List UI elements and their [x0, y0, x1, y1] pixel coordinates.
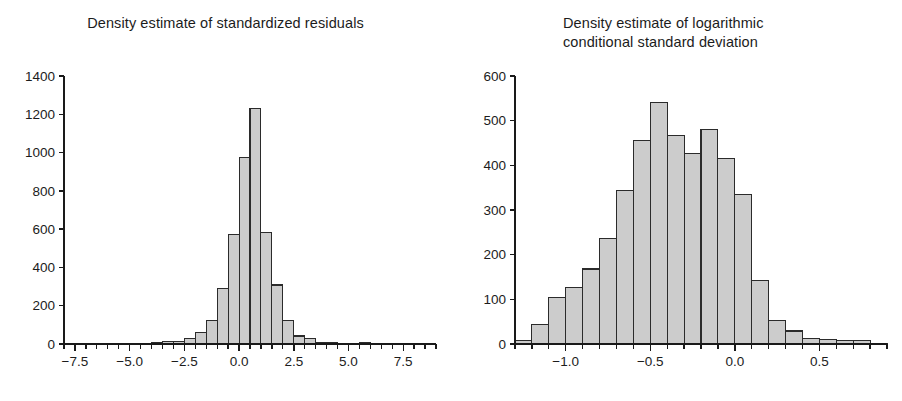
- histogram-bar: [261, 232, 272, 344]
- histogram-bar: [272, 285, 283, 344]
- x-tick-label: −7.5: [62, 354, 89, 369]
- panel-left-title: Density estimate of standardized residua…: [0, 14, 451, 33]
- x-tick-label: −1.0: [552, 354, 579, 369]
- x-tick-label: 2.5: [284, 354, 303, 369]
- panel-standardized-residuals: Density estimate of standardized residua…: [0, 0, 451, 401]
- plot-svg: 0200400600800100012001400−7.5−5.0−2.50.0…: [8, 62, 448, 392]
- histogram-bar: [650, 102, 667, 344]
- histogram-bar: [752, 281, 769, 344]
- y-tick-label: 100: [483, 292, 506, 307]
- histogram-bar: [305, 338, 316, 344]
- histogram-bar: [228, 234, 239, 344]
- histogram-bar: [549, 298, 566, 344]
- histogram-bar: [532, 324, 549, 344]
- histogram-bar: [283, 320, 294, 344]
- histogram-bar: [735, 195, 752, 344]
- histogram-bar: [633, 140, 650, 344]
- x-tick-label: 5.0: [339, 354, 358, 369]
- histogram-bar: [206, 320, 217, 344]
- x-tick-label: −5.0: [116, 354, 143, 369]
- histogram-bar: [195, 332, 206, 344]
- histogram-bar: [566, 288, 583, 344]
- bars-group: [152, 109, 415, 344]
- panel-log-conditional-sd: Density estimate of logarithmic conditio…: [451, 0, 902, 401]
- histogram-bar: [294, 336, 305, 344]
- y-tick-label: 300: [483, 203, 506, 218]
- y-tick-label: 200: [483, 247, 506, 262]
- histogram-bar: [701, 129, 718, 344]
- y-tick-label: 500: [483, 113, 506, 128]
- y-tick-label: 1400: [25, 69, 55, 84]
- y-tick-label: 400: [32, 260, 55, 275]
- panel-right-title: Density estimate of logarithmic conditio…: [563, 14, 883, 52]
- y-tick-label: 600: [483, 69, 506, 84]
- y-tick-label: 1000: [25, 145, 55, 160]
- x-tick-label: 0.5: [810, 354, 829, 369]
- x-tick-label: −2.5: [171, 354, 198, 369]
- histogram-bar: [250, 109, 261, 344]
- histogram-bar: [718, 158, 735, 344]
- y-tick-label: 0: [498, 337, 506, 352]
- x-axis-minor-ticks: [515, 344, 887, 349]
- x-tick-label: 0.0: [725, 354, 744, 369]
- histogram-bar: [217, 289, 228, 344]
- histogram-bar: [583, 269, 600, 344]
- histogram-bar: [239, 158, 250, 344]
- x-tick-label: −0.5: [637, 354, 664, 369]
- y-axis-ticks: 0100200300400500600: [483, 69, 515, 352]
- histogram-log-conditional-sd: 0100200300400500600−1.0−0.50.00.5: [459, 62, 899, 392]
- histogram-bar: [667, 135, 684, 344]
- x-tick-label: 0.0: [230, 354, 249, 369]
- x-axis-ticks: −1.0−0.50.00.5: [552, 344, 828, 369]
- y-tick-label: 0: [47, 337, 55, 352]
- histogram-standardized-residuals: 0200400600800100012001400−7.5−5.0−2.50.0…: [8, 62, 448, 392]
- y-axis-ticks: 0200400600800100012001400: [25, 69, 64, 352]
- histogram-bar: [769, 320, 786, 344]
- histogram-bar: [802, 338, 819, 344]
- y-tick-label: 600: [32, 222, 55, 237]
- histogram-bar: [600, 239, 617, 344]
- bars-group: [515, 102, 887, 344]
- histogram-bar: [184, 338, 195, 344]
- y-tick-label: 800: [32, 184, 55, 199]
- y-tick-label: 1200: [25, 107, 55, 122]
- x-tick-label: 7.5: [394, 354, 413, 369]
- figure-container: Density estimate of standardized residua…: [0, 0, 902, 401]
- histogram-bar: [616, 191, 633, 344]
- plot-svg: 0100200300400500600−1.0−0.50.00.5: [459, 62, 899, 392]
- x-axis-minor-ticks: [64, 344, 436, 349]
- y-tick-label: 400: [483, 158, 506, 173]
- histogram-bar: [786, 331, 803, 344]
- histogram-bar: [684, 154, 701, 344]
- y-tick-label: 200: [32, 298, 55, 313]
